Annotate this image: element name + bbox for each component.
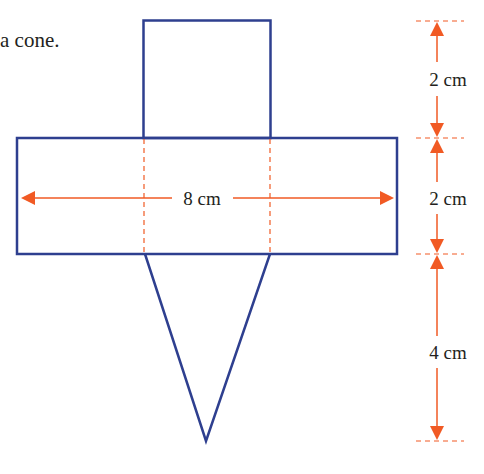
net-outline xyxy=(17,21,397,442)
arrow-up-icon xyxy=(430,255,444,269)
bottom-height-label: 4 cm xyxy=(429,342,467,363)
arrow-up-icon xyxy=(430,22,444,36)
bottom-triangle xyxy=(145,254,270,441)
arrow-down-icon xyxy=(430,239,444,253)
arrow-down-icon xyxy=(430,426,444,440)
arrow-right-icon xyxy=(380,191,394,205)
top-square-face xyxy=(144,21,271,139)
middle-height-label: 2 cm xyxy=(429,188,467,209)
arrow-up-icon xyxy=(430,139,444,153)
cone-net-diagram: a cone. 8 cm 2 cm xyxy=(0,0,484,474)
top-height-label: 2 cm xyxy=(429,69,467,90)
arrow-left-icon xyxy=(21,191,35,205)
width-label: 8 cm xyxy=(183,188,221,209)
arrow-down-icon xyxy=(430,123,444,137)
caption-text: a cone. xyxy=(0,28,59,52)
